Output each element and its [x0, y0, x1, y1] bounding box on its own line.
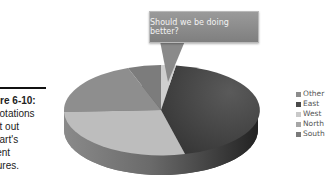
legend-label: North: [303, 119, 324, 129]
legend-swatch-icon: [296, 122, 301, 127]
legend-label: Other: [303, 89, 324, 99]
legend-swatch-icon: [296, 92, 301, 97]
legend-item-south: South: [296, 129, 325, 139]
legend-swatch-icon: [296, 132, 301, 137]
chart-callout-annotation: Should we be doing better?: [149, 11, 259, 43]
legend-label: South: [303, 129, 325, 139]
legend-item-west: West: [296, 109, 325, 119]
legend-item-other: Other: [296, 89, 325, 99]
legend-label: East: [303, 99, 319, 109]
legend-label: West: [303, 109, 321, 119]
chart-legend: Other East West North South: [296, 89, 325, 139]
legend-swatch-icon: [296, 112, 301, 117]
legend-item-north: North: [296, 119, 325, 129]
legend-swatch-icon: [296, 102, 301, 107]
legend-item-east: East: [296, 99, 325, 109]
